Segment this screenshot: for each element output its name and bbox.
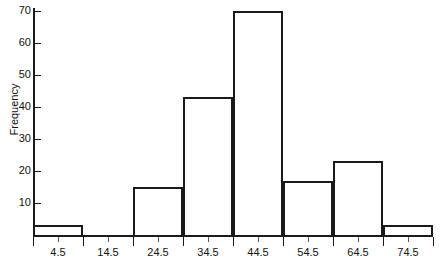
x-axis-tick-label: 24.5 bbox=[138, 246, 178, 259]
histogram-bar bbox=[383, 225, 433, 237]
histogram-bar bbox=[33, 225, 83, 237]
y-axis-tick-label: 40 bbox=[0, 101, 31, 112]
x-axis-center-tick bbox=[58, 237, 59, 242]
y-axis-tick-label-text: 10 bbox=[5, 197, 31, 208]
histogram-bar bbox=[283, 181, 333, 237]
y-axis-tick bbox=[35, 11, 41, 12]
y-axis-tick-label-text: 70 bbox=[5, 5, 31, 16]
y-axis-tick-label-text: 40 bbox=[5, 101, 31, 112]
x-axis-center-tick bbox=[108, 237, 109, 242]
y-axis-tick-label-text: 50 bbox=[5, 69, 31, 80]
histogram-bar bbox=[183, 97, 233, 237]
x-axis-bin-edge-tick bbox=[383, 237, 384, 246]
x-axis-center-tick bbox=[358, 237, 359, 242]
y-axis-tick bbox=[35, 203, 41, 204]
x-axis-bin-edge-tick bbox=[433, 237, 434, 246]
y-axis-tick-label: 70 bbox=[0, 5, 31, 16]
y-axis-tick bbox=[35, 107, 41, 108]
x-axis-center-tick bbox=[308, 237, 309, 242]
x-axis-center-tick bbox=[258, 237, 259, 242]
x-axis-bin-edge-tick bbox=[133, 237, 134, 246]
x-axis-bin-edge-tick bbox=[33, 237, 34, 246]
x-axis-bin-edge-tick bbox=[333, 237, 334, 246]
y-axis-tick-label: 60 bbox=[0, 37, 31, 48]
x-axis-center-tick bbox=[158, 237, 159, 242]
x-axis-tick-label: 14.5 bbox=[88, 246, 128, 259]
x-axis-tick-label: 4.5 bbox=[38, 246, 78, 259]
y-axis-tick-label: 10 bbox=[0, 197, 31, 208]
y-axis-tick bbox=[35, 43, 41, 44]
x-axis-bin-edge-tick bbox=[183, 237, 184, 246]
x-axis-tick-label: 44.5 bbox=[238, 246, 278, 259]
y-axis-tick bbox=[35, 171, 41, 172]
histogram-bar bbox=[333, 161, 383, 237]
y-axis-tick-label: 50 bbox=[0, 69, 31, 80]
histogram-chart: Frequency 10203040506070 4.514.524.534.5… bbox=[0, 0, 440, 268]
x-axis-bin-edge-tick bbox=[233, 237, 234, 246]
x-axis-center-tick bbox=[408, 237, 409, 242]
y-axis-tick-label-text: 30 bbox=[5, 133, 31, 144]
x-axis-tick-label: 54.5 bbox=[288, 246, 328, 259]
x-axis-center-tick bbox=[208, 237, 209, 242]
y-axis-tick-label: 30 bbox=[0, 133, 31, 144]
y-axis-tick-label-text: 20 bbox=[5, 165, 31, 176]
x-axis-tick-label: 74.5 bbox=[388, 246, 428, 259]
x-axis-tick-label: 34.5 bbox=[188, 246, 228, 259]
x-axis-bin-edge-tick bbox=[283, 237, 284, 246]
x-axis-tick-label: 64.5 bbox=[338, 246, 378, 259]
y-axis-tick bbox=[35, 75, 41, 76]
y-axis-tick-label: 20 bbox=[0, 165, 31, 176]
y-axis-tick bbox=[35, 139, 41, 140]
histogram-bar bbox=[233, 11, 283, 237]
y-axis-tick-label-text: 60 bbox=[5, 37, 31, 48]
x-axis-bin-edge-tick bbox=[83, 237, 84, 246]
histogram-bar bbox=[133, 187, 183, 237]
